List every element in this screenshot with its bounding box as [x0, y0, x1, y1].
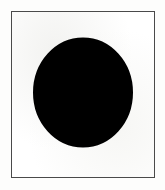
prohibition-sign-svg	[33, 37, 133, 148]
image-canvas	[0, 0, 165, 190]
prohibition-sign	[33, 37, 133, 148]
